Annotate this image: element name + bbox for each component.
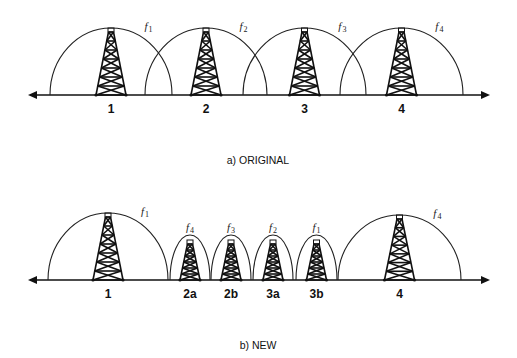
cell-label: 3 <box>301 102 308 116</box>
arrow-left-icon <box>28 91 37 99</box>
tower-icon <box>91 213 124 282</box>
cell-1: f11 <box>48 205 168 301</box>
tower-icon <box>288 28 321 97</box>
coverage-arc <box>338 215 461 280</box>
arrow-right-icon <box>481 276 490 284</box>
cell-label: 2b <box>224 287 238 301</box>
cell-label: 1 <box>105 287 112 301</box>
arrow-right-icon <box>481 91 490 99</box>
frequency-label: f3 <box>338 20 346 34</box>
cell-splitting-diagram: f11f22f33f44 f11f42af32bf23af13bf44 a) O… <box>0 0 517 358</box>
cell-1: f11 <box>50 20 172 116</box>
coverage-arc <box>48 213 168 280</box>
cell-label: 3a <box>266 287 280 301</box>
caption-original: a) ORIGINAL <box>227 154 290 166</box>
frequency-label: f2 <box>269 221 277 235</box>
frequency-label: f4 <box>433 207 441 221</box>
coverage-arc <box>145 28 267 95</box>
cell-label: 1 <box>108 102 115 116</box>
cell-label: 4 <box>398 102 405 116</box>
tower-icon <box>219 240 242 282</box>
cell-4: f44 <box>338 207 461 301</box>
frequency-label: f3 <box>227 221 235 235</box>
cell-label: 3b <box>309 287 323 301</box>
tower-icon <box>189 28 222 97</box>
cell-label: 2a <box>183 287 197 301</box>
cell-4: f44 <box>340 20 463 116</box>
frequency-label: f1 <box>313 221 321 235</box>
tower-icon <box>178 240 201 282</box>
tower-icon <box>305 240 328 282</box>
frequency-label: f4 <box>186 221 194 235</box>
tower-icon <box>383 215 416 282</box>
cell-2a: f42a <box>170 221 210 301</box>
cell-3a: f23a <box>253 221 293 301</box>
coverage-arc <box>50 28 172 95</box>
frequency-label: f1 <box>141 205 149 219</box>
cell-label: 4 <box>396 287 403 301</box>
cell-label: 2 <box>203 102 210 116</box>
cell-3b: f13b <box>296 221 337 301</box>
panel-original: f11f22f33f44 <box>28 20 490 116</box>
tower-icon <box>261 240 284 282</box>
arrow-left-icon <box>28 276 37 284</box>
tower-icon <box>94 28 127 97</box>
frequency-label: f1 <box>145 20 153 34</box>
panel-new: f11f42af32bf23af13bf44 <box>28 205 490 301</box>
frequency-label: f2 <box>240 20 248 34</box>
tower-icon <box>385 28 418 97</box>
cell-2b: f32b <box>211 221 251 301</box>
cell-2: f22 <box>145 20 267 116</box>
caption-new: b) NEW <box>240 339 277 351</box>
frequency-label: f4 <box>435 20 443 34</box>
